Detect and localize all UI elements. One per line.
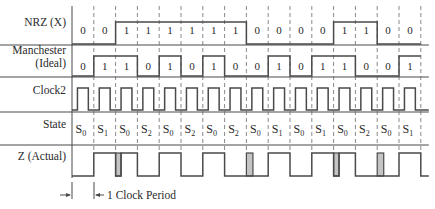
state-label: S0 [250,122,261,138]
row-label-clock2: Clock2 [33,84,66,96]
nrz-bit: 0 [102,24,108,36]
nrz-bit: 0 [255,24,261,36]
manchester-bit: 1 [102,60,108,72]
nrz-bit: 1 [167,24,173,36]
manchester-bit: 1 [167,60,173,72]
manchester-bit: 1 [407,60,413,72]
row-labels: NRZ (X)Manchester(Ideal)Clock2StateZ (Ac… [12,16,66,163]
manchester-bit: 1 [320,60,326,72]
nrz-bit: 1 [211,24,217,36]
clock-period-marker: 1 Clock Period [60,182,176,201]
nrz-bit: 0 [80,24,86,36]
state-label: S2 [185,122,196,138]
nrz-bit: 0 [298,24,304,36]
state-label: S0 [337,122,348,138]
state-label: S0 [119,122,130,138]
state-label: S0 [381,122,392,138]
arrowhead-right-icon [66,193,71,197]
manchester-bit: 1 [342,60,348,72]
timing-diagram: NRZ (X)Manchester(Ideal)Clock2StateZ (Ac… [0,0,435,209]
manchester-bit: 0 [364,60,370,72]
state-label: S0 [294,122,305,138]
nrz-bit: 1 [233,24,239,36]
manchester-bit: 0 [146,60,152,72]
manchester-bit: 0 [298,60,304,72]
state-label: S1 [97,122,108,138]
row-label-manchester: Manchester [12,44,66,56]
state-label: S0 [163,122,174,138]
arrowhead-left-icon [95,193,100,197]
row-label-state: State [43,118,66,130]
z-actual-waveform [72,153,429,176]
state-label: S1 [272,122,283,138]
state-label: S0 [206,122,217,138]
nrz-bit: 0 [407,24,413,36]
state-sequence: S0S1S0S2S0S2S0S2S0S1S0S1S0S2S0S1 [76,122,414,138]
manchester-bit: 1 [276,60,282,72]
manchester-bit: 0 [255,60,261,72]
manchester-bit: 0 [80,60,86,72]
nrz-bit: 1 [124,24,130,36]
manchester-bit: 1 [124,60,130,72]
nrz-bit: 1 [364,24,370,36]
manchester-bit: 0 [189,60,195,72]
nrz-bit: 0 [320,24,326,36]
manchester-bit: 0 [385,60,391,72]
state-label: S2 [359,122,370,138]
row-label-nrz: NRZ (X) [24,16,66,29]
nrz-bit: 1 [189,24,195,36]
state-label: S1 [403,122,414,138]
nrz-bit: 0 [276,24,282,36]
nrz-waveform: 0011111100001100 [72,22,421,44]
z-glitch-pulse [334,153,339,176]
nrz-bit: 0 [385,24,391,36]
row-label-z: Z (Actual) [18,150,66,163]
state-label: S0 [76,122,87,138]
state-label: S1 [315,122,326,138]
row-label-manchester: (Ideal) [35,57,66,70]
state-label: S2 [228,122,239,138]
state-label: S2 [141,122,152,138]
manchester-bit: 0 [233,60,239,72]
nrz-bit: 1 [342,24,348,36]
clock2-waveform [72,88,429,110]
period-label: 1 Clock Period [107,189,176,201]
z-glitch-pulse [246,153,253,176]
z-glitch-pulse [116,153,121,176]
manchester-bit: 1 [211,60,217,72]
z-glitch-pulse [377,153,384,176]
nrz-bit: 1 [146,24,152,36]
